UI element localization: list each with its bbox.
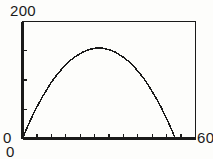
plot-canvas [0,0,213,159]
chart-figure: 200 0 0 60 [0,0,213,159]
x-axis-max-label: 60 [197,130,213,145]
y-axis-max-label: 200 [10,3,36,18]
x-axis-min-label: 0 [6,144,15,159]
